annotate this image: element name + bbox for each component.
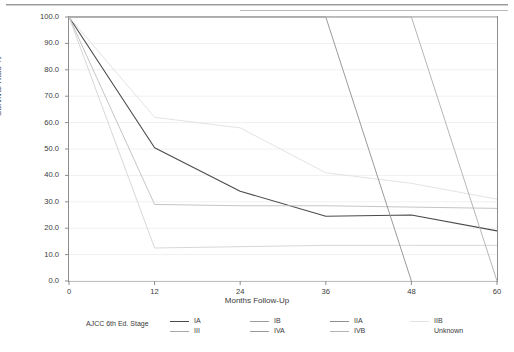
legend-swatch-icon: [250, 321, 269, 322]
legend-item-iia[interactable]: IIA: [330, 317, 410, 325]
legend-label: IVA: [274, 327, 285, 335]
legend-swatch-icon: [170, 321, 189, 322]
legend-item-iva[interactable]: IVA: [250, 327, 330, 335]
legend-row-1: IAIBIIAIIB: [170, 317, 490, 325]
chart-canvas: [0, 0, 514, 352]
legend-item-ia[interactable]: IA: [170, 317, 250, 325]
legend-swatch-icon: [330, 331, 349, 332]
series-line-iva: [69, 17, 497, 248]
legend-swatch-icon: [410, 321, 429, 322]
legend-label: Unknown: [434, 327, 463, 335]
legend-label: IIA: [354, 317, 363, 325]
legend-swatch-icon: [410, 331, 429, 332]
legend-swatch-icon: [250, 331, 269, 332]
series-line-iii: [69, 17, 497, 208]
series-line-ia: [69, 17, 497, 231]
legend-item-unknown[interactable]: Unknown: [410, 327, 490, 335]
legend-title: AJCC 6th Ed. Stage: [86, 320, 149, 327]
legend-swatch-icon: [330, 321, 349, 322]
legend-item-ivb[interactable]: IVB: [330, 327, 410, 335]
legend-item-ib[interactable]: IB: [250, 317, 330, 325]
legend-label: III: [194, 327, 200, 335]
legend-item-iii[interactable]: III: [170, 327, 250, 335]
legend-swatch-icon: [170, 331, 189, 332]
legend-row-2: IIIIVAIVBUnknown: [170, 327, 490, 335]
gridlines: [69, 17, 497, 281]
legend-label: IA: [194, 317, 201, 325]
series-line-iib: [69, 17, 497, 199]
legend-item-iib[interactable]: IIB: [410, 317, 490, 325]
legend-label: IIB: [434, 317, 443, 325]
chart-page: Survival Rate % Months Follow-Up 0.010.0…: [0, 0, 514, 352]
survival-plot: Survival Rate % Months Follow-Up 0.010.0…: [0, 0, 514, 352]
legend-label: IVB: [354, 327, 365, 335]
legend-label: IB: [274, 317, 281, 325]
